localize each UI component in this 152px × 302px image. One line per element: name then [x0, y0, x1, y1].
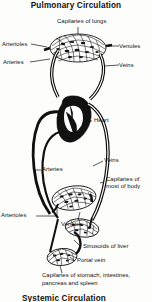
label-portal-vein: Portal vein: [77, 257, 105, 264]
gi-bed-arteriole-inlet: [50, 219, 58, 252]
label-sinusoids-of-liver: Sinusoids of liver: [83, 243, 128, 250]
label-veins-top: Veins: [119, 62, 134, 69]
label-arteries-top: Arteries: [3, 59, 24, 66]
leader-veins-top: [104, 65, 119, 66]
label-capillaries-gi-line1: Capilaries of stomach, intestines,: [42, 272, 130, 279]
leader-veins-mid: [93, 161, 103, 166]
label-capillaries-of-body-line2: most of body: [106, 183, 140, 190]
label-capillaries-of-lungs: Capilaries of lungs: [57, 18, 106, 25]
pulmonary-arteriole-stub: [44, 48, 50, 50]
leader-arteries-top: [30, 59, 50, 62]
label-arteries-mid: Arteries: [42, 166, 63, 173]
label-arterioles-bottom: Arterioles: [1, 212, 26, 219]
lung-capillary-bed-icon: [50, 34, 106, 62]
heart-icon: [57, 96, 91, 142]
body-capillary-bed-icon: [51, 183, 98, 212]
label-venules-top: Venules: [119, 43, 140, 50]
circulation-diagram-figure: Pulmonary Circulation: [0, 0, 152, 302]
pulmonary-vein-vessel: [90, 54, 104, 99]
figure-bottom-caption: Systemic Circulation: [22, 294, 152, 302]
label-arterioles-top: Arterioles: [2, 41, 27, 48]
label-venules-bottom: Venules: [61, 221, 82, 228]
leader-arterioles-top: [31, 44, 47, 47]
label-capillaries-gi-line2: pancreas and spleen: [42, 280, 98, 287]
label-veins-mid: Veins: [104, 157, 119, 164]
label-heart: Heart: [94, 117, 109, 124]
